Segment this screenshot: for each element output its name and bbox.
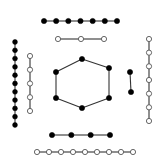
open-node: [78, 36, 83, 41]
graph-edge: [56, 98, 82, 108]
filled-node: [128, 89, 133, 94]
filled-node: [13, 81, 18, 86]
open-node: [106, 149, 111, 154]
open-node: [27, 53, 32, 58]
edge-right-filled: [127, 69, 133, 94]
open-node: [146, 36, 151, 41]
path-left-filled: [13, 40, 18, 128]
open-node: [94, 149, 99, 154]
open-node: [46, 149, 51, 154]
filled-node: [102, 18, 107, 23]
filled-node: [79, 56, 84, 61]
open-node: [146, 105, 151, 110]
open-node: [101, 36, 106, 41]
filled-node: [107, 132, 112, 137]
path-top-filled: [41, 18, 119, 23]
open-node: [146, 118, 151, 123]
open-node: [70, 149, 75, 154]
graph-edge: [56, 59, 82, 72]
filled-node: [13, 40, 18, 45]
path-top-open: [55, 36, 106, 41]
open-node: [130, 149, 135, 154]
open-node: [34, 149, 39, 154]
filled-node: [13, 56, 18, 61]
path-bottom-filled: [49, 132, 112, 137]
open-node: [27, 81, 32, 86]
path-right-open: [146, 36, 151, 123]
filled-node: [54, 18, 59, 23]
open-node: [146, 77, 151, 82]
open-node: [55, 36, 60, 41]
filled-node: [13, 73, 18, 78]
filled-node: [13, 98, 18, 103]
filled-node: [53, 95, 58, 100]
filled-node: [106, 65, 111, 70]
open-node: [58, 149, 63, 154]
open-node: [146, 91, 151, 96]
filled-node: [13, 123, 18, 128]
filled-node: [66, 18, 71, 23]
filled-node: [127, 69, 132, 74]
open-node: [27, 108, 32, 113]
filled-node: [53, 69, 58, 74]
graph-edge: [82, 98, 109, 108]
filled-node: [106, 95, 111, 100]
filled-node: [13, 114, 18, 119]
filled-node: [79, 105, 84, 110]
cycle-center: [53, 56, 111, 110]
filled-node: [49, 132, 54, 137]
filled-node: [13, 89, 18, 94]
graph-edge: [130, 72, 131, 92]
filled-node: [88, 132, 93, 137]
filled-node: [90, 18, 95, 23]
filled-node: [13, 48, 18, 53]
open-node: [146, 64, 151, 69]
filled-node: [13, 65, 18, 70]
filled-node: [41, 18, 46, 23]
path-left-open: [27, 53, 32, 113]
filled-node: [114, 18, 119, 23]
open-node: [146, 50, 151, 55]
open-node: [118, 149, 123, 154]
open-node: [27, 67, 32, 72]
path-bottom-open: [34, 149, 135, 154]
filled-node: [69, 132, 74, 137]
graph-edge: [82, 59, 109, 68]
open-node: [27, 95, 32, 100]
open-node: [82, 149, 87, 154]
graph-diagram: [0, 0, 162, 168]
filled-node: [78, 18, 83, 23]
filled-node: [13, 106, 18, 111]
